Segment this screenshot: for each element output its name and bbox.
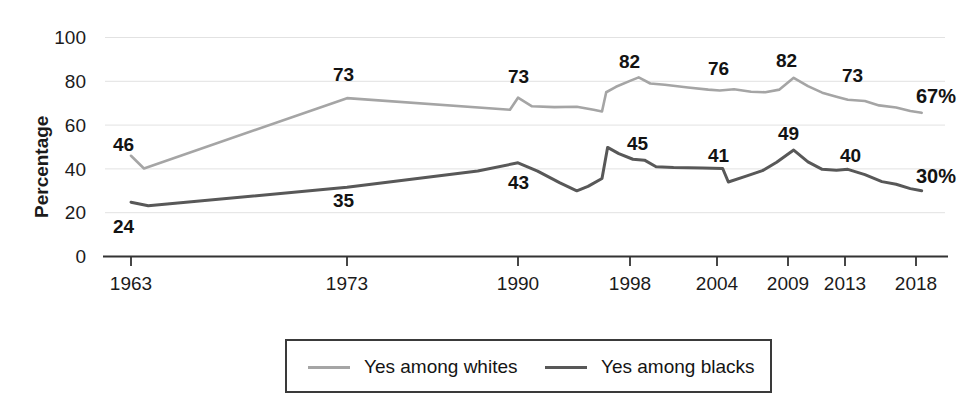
data-label-blacks-2013: 40: [840, 145, 861, 167]
data-label-blacks-1963: 24: [113, 216, 134, 238]
x-tick-1973: 1973: [312, 273, 382, 295]
end-label-whites: 67%: [916, 85, 956, 108]
legend-item-blacks[interactable]: Yes among blacks: [545, 354, 755, 380]
x-tick-2004: 2004: [682, 273, 752, 295]
data-label-whites-2013: 73: [842, 65, 863, 87]
legend-swatch-whites: [308, 366, 350, 369]
y-tick-100: 100: [34, 27, 86, 49]
x-tick-2018: 2018: [881, 273, 951, 295]
data-label-whites-1990: 73: [508, 66, 529, 88]
data-label-blacks-2004: 41: [708, 145, 729, 167]
data-label-blacks-1973: 35: [333, 190, 354, 212]
data-label-whites-2009: 82: [776, 50, 797, 72]
chart-figure: Percentage 100 80 60 40 20 0 1963 1973 1…: [0, 0, 972, 419]
legend-item-whites[interactable]: Yes among whites: [308, 354, 518, 380]
x-axis-ticks: [131, 257, 916, 267]
y-tick-60: 60: [34, 115, 86, 137]
x-tick-1990: 1990: [483, 273, 553, 295]
data-label-whites-1973: 73: [333, 64, 354, 86]
data-label-blacks-2009: 49: [778, 123, 799, 145]
legend-swatch-blacks: [545, 366, 587, 369]
data-label-whites-2004: 76: [708, 58, 729, 80]
chart-legend: Yes among whites Yes among blacks: [285, 339, 772, 393]
x-tick-2013: 2013: [810, 273, 880, 295]
data-label-whites-1963: 46: [113, 134, 134, 156]
y-tick-40: 40: [34, 159, 86, 181]
y-tick-80: 80: [34, 71, 86, 93]
data-label-whites-1998: 82: [619, 51, 640, 73]
series-line-whites: [131, 77, 922, 168]
legend-label-whites: Yes among whites: [364, 356, 518, 378]
legend-label-blacks: Yes among blacks: [601, 356, 755, 378]
data-label-blacks-1998: 45: [627, 133, 648, 155]
y-tick-20: 20: [34, 202, 86, 224]
y-tick-0: 0: [34, 246, 86, 268]
x-tick-1963: 1963: [96, 273, 166, 295]
end-label-blacks: 30%: [916, 165, 956, 188]
x-tick-1998: 1998: [595, 273, 665, 295]
data-label-blacks-1990: 43: [508, 172, 529, 194]
